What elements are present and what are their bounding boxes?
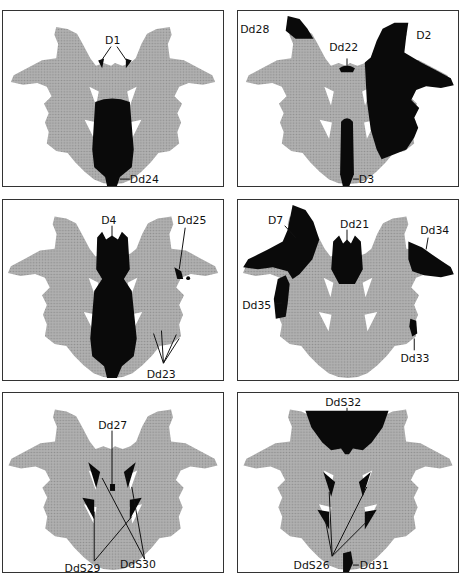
label-dd21: Dd21	[340, 218, 369, 231]
label-d7: D7	[268, 214, 283, 227]
label-dd35: Dd35	[242, 299, 271, 312]
label-dds32: DdS32	[325, 396, 361, 409]
label-dd34: Dd34	[420, 224, 449, 237]
inkblot-figure: D1 Dd24	[3, 11, 223, 186]
panel-d1-dd24: D1 Dd24	[2, 10, 224, 187]
label-dd22: Dd22	[329, 41, 358, 54]
highlight-d3	[340, 118, 354, 186]
panel-d2-d3: Dd28 Dd22 D2 D3	[237, 10, 459, 187]
label-dd27: Dd27	[98, 419, 127, 432]
highlight-d2	[365, 23, 454, 159]
label-dd33: Dd33	[400, 352, 429, 365]
panel-d7-dd21: D7 Dd21 Dd34 Dd35 Dd33	[237, 199, 459, 381]
label-d2: D2	[416, 29, 431, 42]
label-dd28: Dd28	[240, 23, 269, 36]
label-dd24: Dd24	[130, 173, 159, 186]
label-dds30: DdS30	[120, 558, 156, 571]
label-d4: D4	[101, 214, 116, 227]
inkblot-figure: DdS32 DdS26 Dd31	[238, 393, 458, 572]
label-dds26: DdS26	[294, 559, 330, 572]
label-dds29: DdS29	[65, 562, 101, 572]
highlight-dd34	[408, 242, 453, 278]
highlight-dd27	[110, 484, 115, 491]
label-d3: D3	[359, 173, 374, 186]
inkblot-figure: Dd27 DdS29 DdS30	[3, 393, 223, 572]
label-dd23: Dd23	[147, 368, 176, 380]
highlight-d4	[90, 232, 136, 378]
panel-dds29-dds30: Dd27 DdS29 DdS30	[2, 392, 224, 573]
panel-dds32-dds26: DdS32 DdS26 Dd31	[237, 392, 459, 573]
inkblot-figure: D4 Dd25 Dd23	[3, 200, 223, 380]
inkblot-figure: D7 Dd21 Dd34 Dd35 Dd33	[238, 200, 458, 380]
inkblot-figure: Dd28 Dd22 D2 D3	[238, 11, 458, 186]
panel-d4-dd25: D4 Dd25 Dd23	[2, 199, 224, 381]
label-dd25: Dd25	[177, 214, 206, 227]
label-d1: D1	[105, 34, 120, 47]
label-dd31: Dd31	[360, 559, 389, 572]
highlight-dd21	[331, 236, 363, 284]
